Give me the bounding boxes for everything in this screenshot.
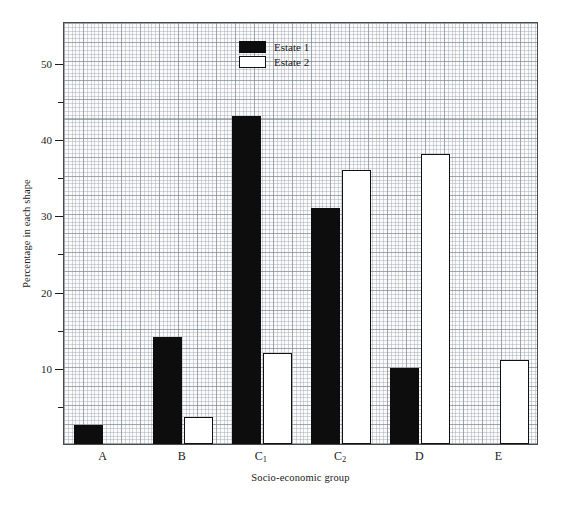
x-axis-tick-label: B xyxy=(152,449,212,464)
bar-c1-estate-2 xyxy=(263,353,292,444)
y-axis-tick-label: 40 xyxy=(26,134,52,146)
bar-a-estate-1 xyxy=(74,425,103,444)
y-axis-tick-label: 10 xyxy=(26,363,52,375)
y-axis-major-tick xyxy=(55,140,63,141)
y-axis-minor-tick xyxy=(58,331,63,332)
y-axis-major-tick xyxy=(55,64,63,65)
x-axis-tick-label: E xyxy=(468,449,528,464)
y-axis-minor-tick xyxy=(58,254,63,255)
y-axis-minor-tick xyxy=(58,178,63,179)
y-axis-major-tick xyxy=(55,369,63,370)
y-axis-tick-labels: 1020304050 xyxy=(26,0,52,506)
y-axis-tick-label: 30 xyxy=(26,210,52,222)
legend-item-2: Estate 2 xyxy=(239,56,309,68)
x-axis-tick-label: D xyxy=(389,449,449,464)
bar-d-estate-1 xyxy=(390,368,419,444)
y-axis-major-tick xyxy=(55,216,63,217)
legend-swatch-icon xyxy=(239,56,266,68)
x-axis-title: Socio-economic group xyxy=(63,472,538,483)
x-axis-tick-label: C2 xyxy=(310,449,370,464)
y-axis-minor-tick xyxy=(58,407,63,408)
legend-swatch-icon xyxy=(239,41,266,53)
x-axis-tick-label: A xyxy=(73,449,133,464)
plot-area xyxy=(63,22,538,445)
legend-label: Estate 1 xyxy=(274,41,309,53)
y-axis-tick-label: 20 xyxy=(26,287,52,299)
x-axis-tick-labels: ABC1C2DE xyxy=(63,449,538,469)
y-axis-major-tick xyxy=(55,293,63,294)
bar-d-estate-2 xyxy=(421,154,450,444)
y-axis-minor-tick xyxy=(58,102,63,103)
bar-b-estate-2 xyxy=(184,417,213,444)
y-axis-tick-label: 50 xyxy=(26,58,52,70)
bar-c1-estate-1 xyxy=(232,116,261,444)
bar-c2-estate-1 xyxy=(311,208,340,444)
bar-chart-figure: Percentage in each shape 1020304050 Esta… xyxy=(0,0,562,506)
x-axis-tick-label: C1 xyxy=(231,449,291,464)
bar-b-estate-1 xyxy=(153,337,182,444)
legend-label: Estate 2 xyxy=(274,56,309,68)
bar-c2-estate-2 xyxy=(342,170,371,444)
chart-legend: Estate 1Estate 2 xyxy=(239,41,309,68)
legend-item-1: Estate 1 xyxy=(239,41,309,53)
bar-e-estate-2 xyxy=(500,360,529,444)
